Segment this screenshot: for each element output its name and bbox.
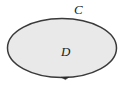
- figure-canvas: [0, 0, 127, 85]
- region-label: D: [61, 45, 70, 58]
- math-figure-region-d: C D: [0, 0, 127, 85]
- boundary-curve-label: C: [74, 3, 83, 16]
